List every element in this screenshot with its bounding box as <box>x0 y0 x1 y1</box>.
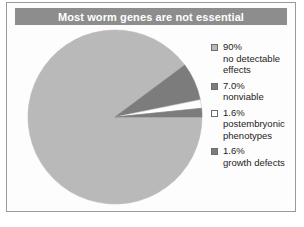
legend-item-description: growth defects <box>223 157 285 169</box>
legend-swatch-icon <box>211 44 218 51</box>
legend-item-percent: 1.6% <box>223 107 285 119</box>
legend-item-label: 1.6%growth defects <box>223 145 285 168</box>
legend-swatch-icon <box>211 110 218 117</box>
legend-item-label: 90%no detectableeffects <box>223 41 280 76</box>
legend-swatch-icon <box>211 83 218 90</box>
legend-item[interactable]: 1.6%postembryonicphenotypes <box>211 107 303 142</box>
legend-item-percent: 7.0% <box>223 80 264 92</box>
chart-title-bar: Most worm genes are not essential <box>15 8 287 25</box>
legend-item-description: effects <box>223 64 280 76</box>
chart-legend: 90%no detectableeffects7.0%nonviable1.6%… <box>211 41 303 172</box>
plot-area: 90%no detectableeffects7.0%nonviable1.6%… <box>15 27 287 205</box>
legend-item-description: nonviable <box>223 91 264 103</box>
chart-figure: Most worm genes are not essential 90%no … <box>6 2 296 212</box>
page-title: Most worm genes are not essential <box>58 11 244 23</box>
legend-item-description: postembryonic <box>223 118 285 130</box>
pie-chart <box>21 29 211 209</box>
legend-item[interactable]: 90%no detectableeffects <box>211 41 303 76</box>
legend-item[interactable]: 1.6%growth defects <box>211 145 303 168</box>
legend-swatch-icon <box>211 148 218 155</box>
pie-slice-group <box>28 30 202 204</box>
legend-item-label: 1.6%postembryonicphenotypes <box>223 107 285 142</box>
legend-item[interactable]: 7.0%nonviable <box>211 80 303 103</box>
pie-chart-svg <box>21 29 211 209</box>
legend-item-percent: 1.6% <box>223 145 285 157</box>
legend-item-label: 7.0%nonviable <box>223 80 264 103</box>
legend-item-percent: 90% <box>223 41 280 53</box>
legend-item-description: no detectable <box>223 53 280 65</box>
legend-item-description: phenotypes <box>223 130 285 142</box>
